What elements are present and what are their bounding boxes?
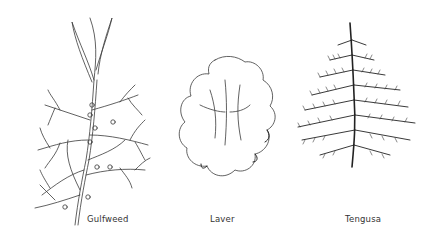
gulfweed-label: Gulfweed <box>87 214 129 224</box>
tengusa-figure <box>290 15 440 175</box>
laver-icon <box>175 50 285 190</box>
gulfweed-figure <box>20 10 160 230</box>
gulfweed-icon <box>20 10 160 230</box>
laver-label: Laver <box>210 214 235 224</box>
tengusa-icon <box>290 15 440 175</box>
tengusa-label: Tengusa <box>345 214 381 224</box>
laver-figure <box>175 50 285 190</box>
